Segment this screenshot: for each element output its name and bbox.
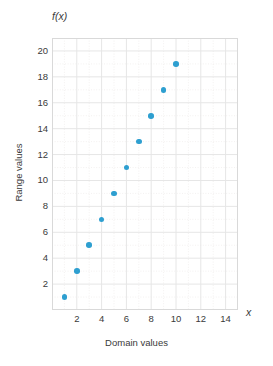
scatter-plot-figure: f(x) Range values 2468101214161820 24681… [0, 0, 273, 366]
data-point [62, 294, 68, 300]
x-axis-symbol-label: x [246, 306, 251, 318]
y-tick-label: 16 [26, 98, 48, 108]
data-point [111, 191, 117, 197]
data-point [161, 87, 167, 93]
x-tick-label: 12 [189, 313, 213, 324]
data-point [136, 139, 142, 145]
plot-grid [52, 38, 238, 310]
y-axis-symbol-label: f(x) [52, 10, 67, 22]
data-point [86, 242, 92, 248]
x-axis-title: Domain values [0, 337, 273, 348]
y-tick-label: 18 [26, 72, 48, 82]
plot-area [52, 38, 238, 310]
x-tick-label: 14 [214, 313, 238, 324]
y-tick-label: 10 [26, 175, 48, 185]
x-tick-label: 4 [90, 313, 114, 324]
x-tick-label: 2 [65, 313, 89, 324]
data-point [74, 268, 80, 274]
y-tick-label: 8 [26, 201, 48, 211]
data-point [148, 113, 154, 119]
y-axis-title: Range values [13, 103, 24, 243]
x-tick-label: 8 [139, 313, 163, 324]
x-tick-label: 6 [114, 313, 138, 324]
y-axis-tick-labels: 2468101214161820 [24, 38, 48, 310]
y-tick-label: 4 [26, 253, 48, 263]
data-point [173, 61, 179, 67]
x-axis-tick-labels: 2468101214 [52, 313, 238, 327]
x-tick-label: 10 [164, 313, 188, 324]
y-tick-label: 6 [26, 227, 48, 237]
y-tick-label: 20 [26, 46, 48, 56]
y-tick-label: 2 [26, 279, 48, 289]
y-tick-label: 12 [26, 150, 48, 160]
y-tick-label: 14 [26, 124, 48, 134]
